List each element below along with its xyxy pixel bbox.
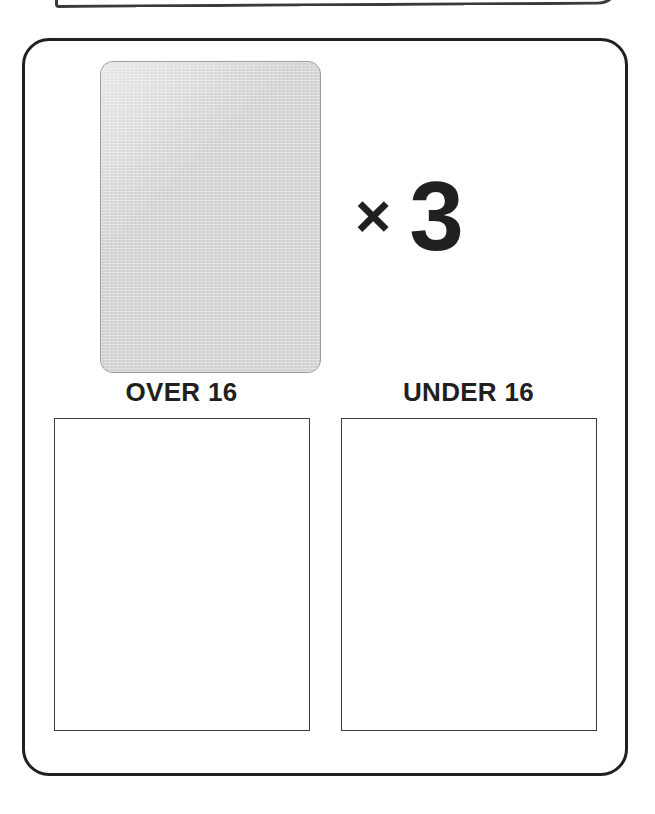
multiplier-count: 3 (409, 167, 462, 265)
drop-zone-under-16[interactable] (341, 418, 597, 731)
cut-off-card-above (55, 0, 620, 8)
column-under-16: UNDER 16 (341, 377, 597, 731)
drop-zone-over-16[interactable] (54, 418, 310, 731)
column-label-over-16: OVER 16 (126, 377, 238, 408)
column-over-16: OVER 16 (54, 377, 310, 731)
source-row: × 3 (25, 41, 625, 377)
sorting-columns: OVER 16 UNDER 16 (25, 377, 625, 731)
activity-card: × 3 OVER 16 UNDER 16 (22, 38, 628, 776)
blank-gray-card[interactable] (100, 61, 321, 373)
multiplication-sign-icon: × (355, 185, 391, 247)
column-label-under-16: UNDER 16 (403, 377, 534, 408)
multiplier-annotation: × 3 (355, 167, 462, 265)
